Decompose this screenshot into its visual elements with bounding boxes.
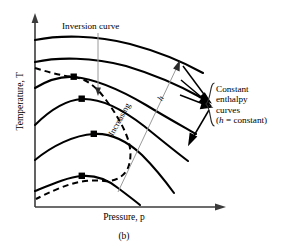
x-axis-label: Pressure, p: [64, 212, 184, 223]
enthalpy-curve-5: [35, 134, 174, 193]
inversion-point-marker: [91, 131, 97, 137]
annotation-line-2: enthalpy: [216, 94, 267, 104]
inversion-point-markers-group: [71, 74, 98, 180]
x-axis-arrowhead: [215, 203, 226, 210]
figure-caption: (b): [64, 231, 184, 242]
annotation-equals-constant: = constant): [224, 115, 267, 125]
inversion-curve-label: Inversion curve: [62, 21, 119, 31]
enthalpy-pointer-line: [192, 110, 209, 139]
annotation-line-1: Constant: [216, 84, 267, 94]
inversion-leader-group: [95, 33, 101, 96]
annotation-line-4: (h = constant): [216, 115, 267, 125]
inversion-point-marker: [79, 96, 85, 102]
increasing-h-arrowhead: [173, 60, 180, 72]
inversion-point-marker: [79, 173, 85, 179]
increasing-h-arrow-group: [118, 60, 180, 192]
inversion-point-marker: [71, 74, 77, 80]
annotation-line-3: curves: [216, 105, 267, 115]
enthalpy-pointer-line: [183, 66, 206, 97]
figure-container: Temperature, T Pressure, p (b) Inversion…: [0, 0, 287, 249]
constant-enthalpy-annotation: Constant enthalpy curves (h = constant): [216, 84, 267, 125]
increasing-h-arrow-line: [118, 67, 177, 192]
y-axis-label: Temperature, T: [15, 51, 26, 151]
y-axis-arrowhead: [32, 13, 39, 23]
